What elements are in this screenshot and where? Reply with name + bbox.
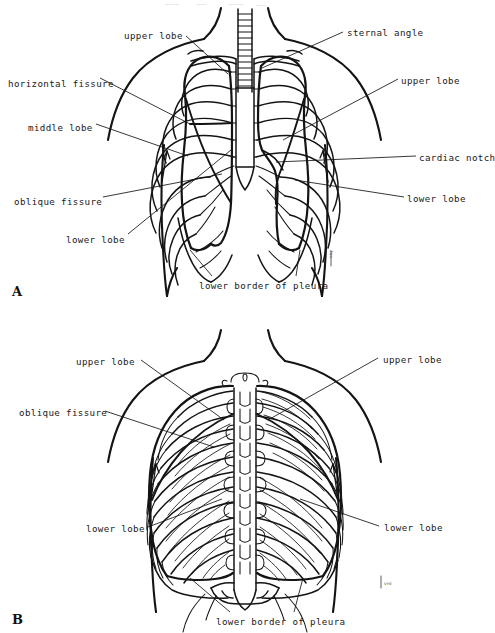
horizontal-fissure-right: [190, 123, 231, 124]
label-horizontal-fissure: horizontal fissure: [8, 79, 114, 88]
label-upper-lobe-right-posterior: upper lobe: [383, 355, 442, 364]
trachea: [238, 9, 252, 92]
scan-artifact: [196, 4, 206, 5]
label-lower-lobe-left-anterior: lower lobe: [66, 235, 125, 244]
clavicles: [188, 51, 302, 66]
torso-outline-posterior: [108, 330, 381, 612]
lower-border-of-pleura-posterior: [152, 560, 338, 598]
torso-outline-anterior: [108, 8, 381, 296]
oblique-fissure-left-posterior: [257, 414, 338, 500]
rib-shafts-right: [312, 417, 343, 585]
lower-lobe-hatching-right: [260, 478, 322, 581]
oblique-fissure-right-anterior: [186, 99, 231, 203]
costal-cartilage-right: [254, 72, 294, 234]
sternum: [236, 59, 254, 190]
scan-artifact: [256, 5, 266, 6]
label-oblique-fissure-anterior: oblique fissure: [14, 197, 102, 206]
label-middle-lobe: middle lobe: [28, 123, 93, 132]
oblique-fissure-right-posterior: [152, 414, 233, 500]
artist-signature-a: VHE: [330, 250, 334, 258]
tracheal-rings: [238, 14, 252, 86]
vertebral-column: [234, 388, 256, 610]
left-lung-outline-anterior: [258, 57, 308, 250]
upper-lobe-hatching: [262, 392, 324, 491]
artist-signature-b: VHE: [384, 583, 392, 587]
axillary-arrow-marks: [162, 151, 328, 182]
right-lung-outline-anterior: [182, 57, 232, 250]
oblique-fissure-left-anterior: [276, 99, 304, 204]
ribs-posterior-right: [257, 391, 336, 583]
right-lung-outline-posterior: [149, 386, 233, 580]
lower-lobe-hatching-left: [166, 424, 230, 580]
left-lung-outline-posterior: [257, 386, 341, 580]
label-upper-lobe-left-posterior: upper lobe: [76, 357, 135, 366]
cardiac-notch-curve: [262, 150, 283, 170]
scan-artifact: [228, 4, 244, 5]
rib-cage-anterior-right: [256, 69, 340, 285]
panel-a-artwork: [96, 8, 416, 296]
rib-cage-anterior-left: [150, 69, 234, 285]
seventh-cervical-vertebra: [222, 373, 268, 385]
label-oblique-fissure-posterior: oblique fissure: [19, 408, 107, 417]
sacrum-posterior: [211, 583, 279, 604]
label-lower-lobe-right-posterior: lower lobe: [384, 523, 443, 532]
ribs-posterior-left: [154, 391, 233, 583]
label-upper-lobe-left-anterior: upper lobe: [124, 31, 183, 40]
label-lower-border-of-pleura-anterior: lower border of pleura: [199, 281, 328, 290]
label-sternal-angle: sternal angle: [347, 28, 423, 37]
axillary-arrow-marks-b: [151, 464, 338, 500]
panel-letter-a: A: [12, 285, 22, 298]
label-lower-lobe-right-anterior: lower lobe: [407, 194, 466, 203]
scan-artifact: [165, 4, 179, 5]
label-cardiac-notch: cardiac notch: [419, 153, 495, 162]
spinous-processes: [240, 392, 250, 574]
panel-a-leader-lines: [96, 32, 416, 276]
panel-b-leader-lines: [105, 358, 379, 612]
costal-margin-anterior: [196, 231, 294, 268]
label-upper-lobe-right-anterior: upper lobe: [401, 76, 460, 85]
costal-cartilage-left: [196, 72, 236, 234]
label-lower-border-of-pleura-posterior: lower border of pleura: [216, 617, 345, 626]
lower-border-of-pleura-anterior: [178, 218, 312, 282]
label-lower-lobe-left-posterior: lower lobe: [86, 524, 145, 533]
panel-letter-b: B: [12, 613, 23, 626]
rib-shafts-left: [147, 417, 178, 585]
panel-b-artwork: [105, 330, 381, 632]
transverse-processes: [224, 399, 266, 570]
